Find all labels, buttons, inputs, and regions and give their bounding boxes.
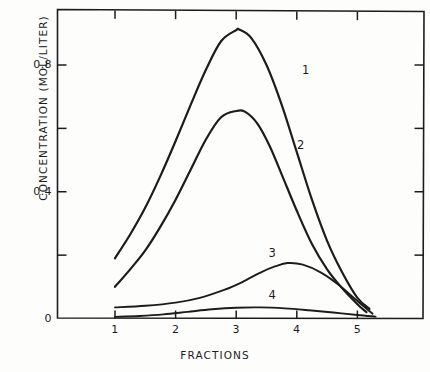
curve-label-2: 2 <box>297 140 305 152</box>
x-tick-label-5: 5 <box>345 324 369 335</box>
curve-label-1: 1 <box>302 65 310 77</box>
y-tick-label-0: 0 <box>18 313 52 324</box>
curve-label-4: 4 <box>269 290 277 302</box>
x-tick-label-4: 4 <box>285 324 309 335</box>
plot-frame <box>58 10 425 319</box>
y-axis-title: CONCENTRATION (MOL/LITER) <box>37 15 49 201</box>
data-curves <box>115 29 376 317</box>
curve-4 <box>115 307 376 317</box>
curve-3 <box>115 263 373 314</box>
chart-figure: 12345 00.40.8 1234 FRACTIONS CONCENTRATI… <box>0 0 430 372</box>
curve-label-3: 3 <box>269 248 277 260</box>
x-axis-title: FRACTIONS <box>0 350 430 361</box>
curve-1 <box>115 29 370 309</box>
x-tick-label-3: 3 <box>224 324 248 335</box>
x-tick-label-2: 2 <box>164 324 188 335</box>
plot-frame-border <box>58 10 425 319</box>
y-axis-title-wrapper: CONCENTRATION (MOL/LITER) <box>32 8 48 208</box>
chart-canvas <box>0 0 430 372</box>
x-tick-label-1: 1 <box>103 324 127 335</box>
axis-ticks <box>58 11 423 319</box>
